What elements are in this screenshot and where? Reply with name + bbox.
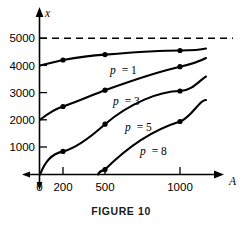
curve-p-8: [98, 100, 206, 175]
figure-caption: FIGURE 10: [0, 205, 242, 217]
x-axis-ticks: [63, 167, 180, 175]
figure-10-container: x A 5000 4000: [0, 0, 242, 228]
x-tick-label-500: 500: [95, 181, 114, 193]
x-axis-arrowhead: [214, 171, 224, 179]
curve-label-p-3-symbol: p: [112, 95, 119, 108]
y-tick-label-4000: 4000: [9, 60, 35, 72]
line-chart: x A 5000 4000: [0, 0, 242, 204]
data-point-p8-1000: [177, 119, 182, 124]
curve-label-p-5: p = 5: [124, 121, 152, 134]
x-axis-left-arrowhead: [22, 172, 30, 178]
y-tick-label-2000: 2000: [9, 114, 35, 126]
curve-label-p-8-symbol: p: [139, 145, 146, 158]
data-point-p3-1000: [177, 64, 182, 69]
data-point-p5-200: [60, 149, 65, 154]
y-axis-label: x: [44, 7, 51, 19]
x-tick-label-0: 0: [36, 181, 42, 193]
curve-label-p-8-value: = 8: [152, 145, 167, 157]
curve-label-p-5-symbol: p: [124, 121, 131, 134]
data-point-p1-1000: [177, 48, 182, 53]
y-tick-label-1000: 1000: [9, 141, 35, 153]
data-point-p1-500: [102, 52, 107, 57]
curve-label-p-1-symbol: p: [109, 64, 116, 77]
data-point-p3-500: [102, 88, 107, 93]
curve-label-p-1-value: = 1: [122, 64, 137, 76]
data-point-p3-200: [60, 104, 65, 109]
curve-label-p-5-value: = 5: [137, 121, 152, 133]
data-point-p8-500: [102, 167, 107, 172]
x-tick-label-1000: 1000: [167, 181, 193, 193]
curve-label-p-8: p = 8: [139, 145, 167, 158]
y-axis: [36, 7, 44, 190]
y-tick-label-3000: 3000: [9, 87, 35, 99]
x-tick-label-200: 200: [53, 181, 72, 193]
data-point-p5-1000: [177, 88, 182, 93]
y-tick-label-5000: 5000: [9, 32, 35, 44]
x-axis: [22, 171, 224, 179]
x-axis-label: A: [228, 175, 237, 187]
y-axis-arrowhead: [36, 7, 44, 17]
data-point-p1-200: [60, 57, 65, 62]
data-point-p5-500: [102, 122, 107, 127]
curve-label-p-3: p = 3: [112, 95, 140, 108]
y-axis-ticks: [40, 38, 48, 147]
curve-label-p-3-value: = 3: [125, 95, 140, 107]
curve-label-p-1: p = 1: [109, 64, 137, 77]
